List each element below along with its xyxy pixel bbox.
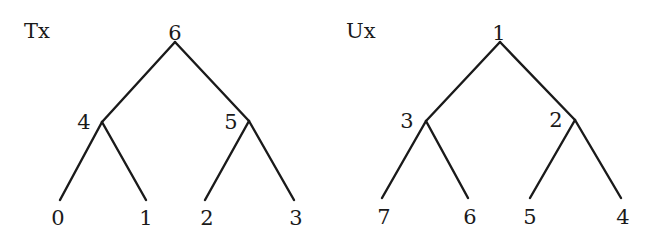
edge	[249, 121, 294, 200]
root-node-label: 1	[492, 21, 505, 45]
edge	[426, 121, 468, 198]
leaf-node-label: 7	[377, 205, 390, 229]
tree-ux: Ux 1 3 2 7 6 5 4	[346, 19, 630, 229]
edge	[575, 120, 621, 198]
leaf-node-label: 2	[200, 206, 213, 230]
leaf-node-label: 5	[523, 205, 536, 229]
root-node-label: 6	[168, 21, 181, 45]
internal-node-label: 5	[224, 110, 237, 134]
edge	[500, 42, 575, 120]
internal-node-label: 2	[549, 108, 562, 132]
binary-trees-diagram: Tx 6 4 5 0 1 2 3 Ux 1 3 2 7 6 5 4	[0, 0, 653, 240]
internal-node-label: 4	[77, 110, 90, 134]
leaf-node-label: 4	[616, 205, 629, 229]
edge	[426, 42, 500, 121]
edge	[102, 122, 146, 200]
tree-tx: Tx 6 4 5 0 1 2 3	[24, 19, 303, 230]
edge	[102, 42, 175, 122]
tree-title: Tx	[24, 19, 50, 43]
edge	[175, 42, 249, 121]
leaf-node-label: 1	[139, 206, 152, 230]
leaf-node-label: 6	[463, 205, 476, 229]
leaf-node-label: 0	[51, 206, 64, 230]
internal-node-label: 3	[400, 109, 413, 133]
tree-title: Ux	[346, 19, 376, 43]
leaf-node-label: 3	[289, 206, 302, 230]
